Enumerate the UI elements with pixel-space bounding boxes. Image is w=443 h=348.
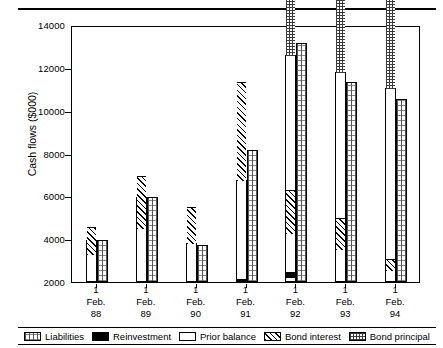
segment-bond-interest — [87, 227, 96, 255]
y-axis-tick-label: 4000 — [43, 235, 65, 245]
legend-item: Reinvestment — [92, 331, 171, 342]
segment-liabilities — [198, 246, 207, 281]
liabilities-bar — [197, 245, 208, 282]
liabilities-bar — [396, 99, 407, 282]
legend-item: Liabilities — [24, 331, 84, 342]
legend-label: Reinvestment — [113, 331, 171, 342]
segment-liabilities — [347, 83, 356, 281]
legend-label: Liabilities — [45, 331, 84, 342]
segment-bond-principal — [286, 0, 295, 56]
segment-reinvestment — [336, 281, 345, 282]
stacked-asset-bar — [285, 55, 296, 282]
segment-bond-principal — [336, 0, 345, 73]
y-axis: Cash flows ($000) 1400012000100008000600… — [0, 0, 71, 348]
legend-swatch-solid-black-icon — [92, 332, 109, 341]
legend-swatch-cross-hatch-icon — [349, 332, 366, 341]
stacked-asset-bar — [236, 180, 247, 282]
liabilities-bar — [346, 82, 357, 282]
legend-label: Prior balance — [200, 331, 256, 342]
stacked-asset-bar — [335, 72, 346, 282]
legend-swatch-white-icon — [179, 332, 196, 341]
legend-item: Bond principal — [349, 331, 430, 342]
liabilities-bar — [97, 240, 108, 282]
legend-swatch-stipple-icon — [24, 332, 41, 341]
liabilities-bar — [147, 197, 158, 282]
legend-item: Bond interest — [264, 331, 341, 342]
y-axis-tick-label: 2000 — [43, 278, 65, 288]
legend-label: Bond interest — [285, 331, 341, 342]
segment-liabilities — [297, 44, 306, 281]
stacked-asset-bar — [136, 197, 147, 282]
x-axis-group-label: 1Feb.94 — [365, 284, 425, 320]
x-axis: 1Feb.881Feb.891Feb.901Feb.911Feb.921Feb.… — [71, 284, 420, 326]
x-label-month: Feb. — [365, 296, 425, 308]
x-label-year: 94 — [365, 308, 425, 320]
x-label-day: 1 — [365, 284, 425, 296]
y-axis-tick-label: 14000 — [38, 21, 65, 31]
legend-item: Prior balance — [179, 331, 256, 342]
y-axis-tick-label: 10000 — [38, 107, 65, 117]
stacked-asset-bar — [385, 88, 396, 282]
plot-area — [71, 26, 420, 283]
segment-liabilities — [248, 151, 257, 281]
segment-bond-interest — [386, 259, 395, 271]
segment-reinvestment — [187, 281, 196, 282]
liabilities-bar — [247, 150, 258, 282]
chart-figure: Cash flows ($000) 1400012000100008000600… — [0, 0, 443, 348]
stacked-asset-bar — [86, 240, 97, 282]
liabilities-bar — [296, 43, 307, 282]
segment-reinvestment — [237, 279, 246, 281]
legend-swatch-diagonal-hatch-icon — [264, 332, 281, 341]
y-axis-tick-label: 6000 — [43, 193, 65, 203]
segment-bond-interest — [137, 176, 146, 230]
segment-liabilities — [397, 100, 406, 281]
segment-bond-principal — [386, 0, 395, 89]
legend-label: Bond principal — [370, 331, 430, 342]
segment-bond-interest — [237, 82, 246, 182]
y-axis-tick-label: 8000 — [43, 150, 65, 160]
segment-liabilities — [148, 198, 157, 281]
stacked-asset-bar — [186, 243, 197, 282]
chart-legend: LiabilitiesReinvestmentPrior balanceBond… — [18, 327, 436, 345]
segment-bond-interest — [286, 190, 295, 234]
segment-liabilities — [98, 241, 107, 281]
y-axis-tick-label: 12000 — [38, 64, 65, 74]
y-axis-title: Cash flows ($000) — [26, 14, 38, 254]
segment-bond-interest — [336, 218, 345, 250]
top-divider-rule — [18, 8, 436, 10]
segment-reinvestment — [286, 272, 295, 277]
segment-bond-interest — [187, 207, 196, 244]
